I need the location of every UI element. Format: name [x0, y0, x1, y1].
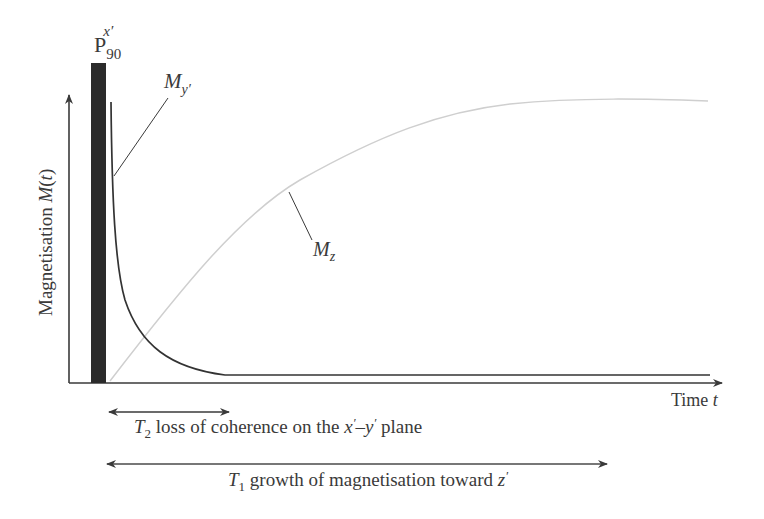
t2-label: T2 loss of coherence on the x′–y′ plane: [134, 415, 422, 441]
pulse-bar: [91, 63, 106, 383]
x-axis-label: Time t: [671, 390, 719, 410]
my-curve: [111, 102, 710, 375]
my-leader-line: [114, 98, 168, 176]
mz-curve: [110, 99, 708, 381]
t1-label: T1 growth of magnetisation toward z′: [228, 468, 508, 494]
y-axis-label: Magnetisation M(t): [35, 169, 57, 316]
pulse-label: P90x′: [94, 23, 121, 62]
mz-label: Mz: [312, 238, 336, 264]
my-label: My′: [163, 69, 192, 97]
magnetisation-diagram: P90x′ My′ Mz Magnetisation M(t) Time t T…: [0, 0, 764, 519]
mz-leader-line: [289, 192, 312, 240]
